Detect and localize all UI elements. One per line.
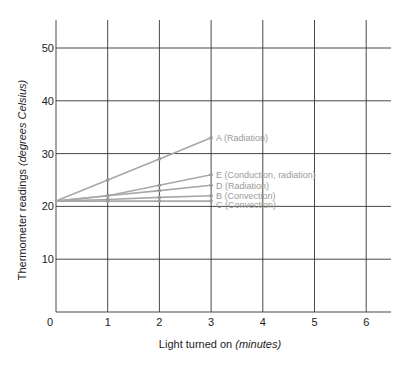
x-axis-label: Light turned on (minutes) — [159, 338, 282, 350]
data-point — [158, 183, 162, 187]
data-point — [106, 199, 110, 203]
data-point — [106, 194, 110, 198]
grid — [56, 20, 391, 312]
x-tick-label: 0 — [47, 316, 53, 328]
data-point — [209, 173, 213, 177]
y-tick-label: 30 — [42, 148, 54, 160]
x-tick-label: 3 — [208, 316, 214, 328]
series-lines — [56, 136, 213, 203]
y-tick-label: 20 — [42, 200, 54, 212]
data-point — [158, 189, 162, 193]
series-label: C (Convection) — [216, 200, 276, 210]
x-tick-label: 4 — [260, 316, 266, 328]
data-point — [209, 136, 213, 140]
data-point — [106, 178, 110, 182]
x-axis-ticks: 0123456 — [47, 316, 369, 328]
y-axis-ticks: 1020304050 — [42, 42, 54, 265]
x-tick-label: 6 — [363, 316, 369, 328]
x-tick-label: 5 — [311, 316, 317, 328]
series-label: D (Radiation) — [216, 181, 269, 191]
data-point — [209, 194, 213, 198]
data-point — [158, 199, 162, 203]
y-axis-label: Thermometer readings (degrees Celsius) — [16, 79, 28, 280]
data-point — [158, 157, 162, 161]
data-point — [158, 196, 162, 200]
x-tick-label: 1 — [105, 316, 111, 328]
y-tick-label: 10 — [42, 253, 54, 265]
series-label: A (Radiation) — [216, 133, 268, 143]
series-line — [56, 138, 211, 201]
data-point — [209, 199, 213, 203]
x-tick-label: 2 — [156, 316, 162, 328]
data-point — [209, 183, 213, 187]
y-tick-label: 50 — [42, 42, 54, 54]
series-label: E (Conduction, radiation) — [216, 170, 316, 180]
y-tick-label: 40 — [42, 95, 54, 107]
line-chart: 0123456 1020304050 A (Radiation)E (Condu… — [0, 0, 408, 369]
series-labels: A (Radiation)E (Conduction, radiation)D … — [216, 133, 316, 209]
